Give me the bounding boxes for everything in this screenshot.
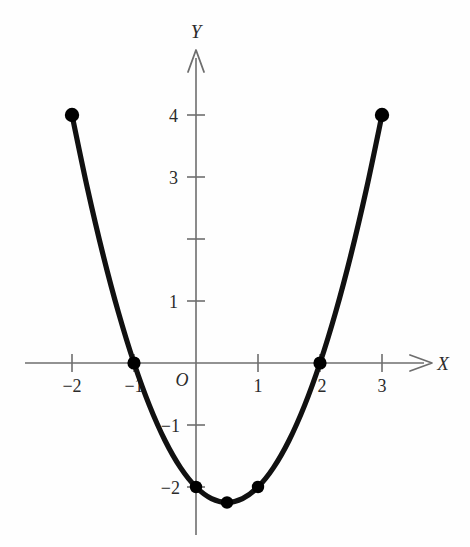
data-point-3-4	[375, 108, 389, 122]
data-point-1--2	[252, 481, 264, 493]
marked-points	[65, 108, 389, 509]
data-point--2-4	[65, 108, 79, 122]
data-point--1-0	[127, 356, 140, 369]
data-point-0--2	[190, 481, 202, 493]
y-tick-label-4: 4	[169, 106, 178, 126]
x-tick-label-2: 2	[318, 376, 327, 396]
y-tick-label-3: 3	[169, 168, 178, 188]
parabola-curve-stroke	[72, 115, 382, 503]
parabola-curve	[72, 113, 382, 283]
data-point-2-0	[313, 356, 326, 369]
x-tick-label--2: −2	[62, 376, 81, 396]
x-tick-labels: −2 −1 1 2 3	[62, 376, 386, 396]
origin-label: O	[176, 370, 189, 390]
data-point-0_5--2_25	[221, 496, 233, 508]
y-tick-label--2: −2	[161, 478, 180, 498]
y-tick-label-1: 1	[169, 292, 178, 312]
x-axis-label: X	[436, 353, 450, 374]
parabola-plot: −2 −1 1 2 3 4 3 1 −1 −2 Y X O	[0, 0, 470, 547]
x-tick-label-1: 1	[254, 376, 263, 396]
graph-figure: −2 −1 1 2 3 4 3 1 −1 −2 Y X O	[0, 0, 470, 547]
x-tick-label-3: 3	[378, 376, 387, 396]
axes-group	[25, 50, 432, 535]
y-axis-label: Y	[191, 21, 204, 42]
